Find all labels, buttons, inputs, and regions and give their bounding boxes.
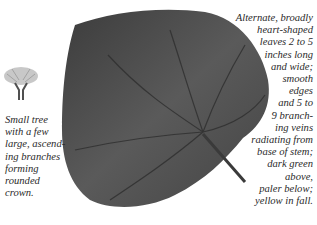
caption-line: crown. (5, 187, 75, 199)
caption-line: heart-shaped (201, 24, 313, 36)
caption-line: forming (5, 163, 75, 175)
tree-silhouette-icon (2, 64, 40, 100)
caption-line: above, (201, 171, 313, 183)
caption-line: ing branches (5, 151, 75, 163)
caption-line: paler below; (201, 183, 313, 195)
caption-line: Small tree (5, 114, 75, 126)
caption-line: 9 branch- (201, 110, 313, 122)
caption-line: yellow in fall. (201, 195, 313, 207)
leaf-description-caption: Alternate, broadly heart-shaped leaves 2… (201, 12, 313, 207)
tree-description-caption: Small tree with a few large, ascend- ing… (5, 114, 75, 199)
caption-line: edges (201, 85, 313, 97)
caption-line: and 5 to (201, 97, 313, 109)
caption-line: Alternate, broadly (201, 12, 313, 24)
caption-line: large, ascend- (5, 138, 75, 150)
caption-line: radiating from (201, 134, 313, 146)
caption-line: inches long (201, 49, 313, 61)
caption-line: leaves 2 to 5 (201, 36, 313, 48)
caption-line: dark green (201, 158, 313, 170)
caption-line: and wide; (201, 61, 313, 73)
caption-line: with a few (5, 126, 75, 138)
caption-line: rounded (5, 175, 75, 187)
caption-line: ing veins (201, 122, 313, 134)
caption-line: base of stem; (201, 146, 313, 158)
caption-line: smooth (201, 73, 313, 85)
